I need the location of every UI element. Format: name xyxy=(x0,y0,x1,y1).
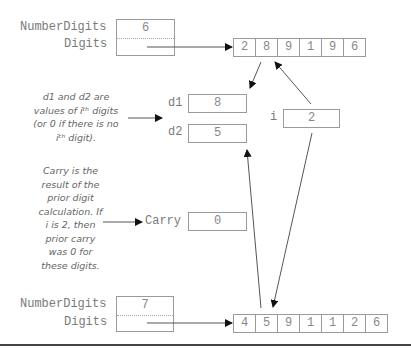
array-cell: 1 xyxy=(321,314,344,333)
array-cell: 6 xyxy=(365,314,388,333)
array-cell: 6 xyxy=(343,38,366,57)
array-cell: 5 xyxy=(255,314,278,333)
array-cell: 2 xyxy=(233,38,256,57)
d2-label: d2 xyxy=(168,125,182,139)
array-cell: 9 xyxy=(277,38,300,57)
digits-label-top: Digits xyxy=(64,37,107,51)
array-cell: 9 xyxy=(321,38,344,57)
i-box: 2 xyxy=(283,109,340,128)
digits-label-bottom: Digits xyxy=(64,315,107,329)
number-digits-label-top: NumberDigits xyxy=(20,20,106,34)
d2-box: 5 xyxy=(188,124,247,143)
bottom-record-box: 7 xyxy=(116,296,174,332)
d1-box: 8 xyxy=(188,94,247,113)
carry-box: 0 xyxy=(188,212,247,231)
array-cell: 8 xyxy=(255,38,278,57)
array-cell: 9 xyxy=(277,314,300,333)
bottom-digits-array: 4 5 9 1 1 2 6 xyxy=(233,314,388,333)
top-digits-array: 2 8 9 1 9 6 xyxy=(233,38,366,57)
bottom-number-digits-value: 7 xyxy=(117,297,173,316)
top-number-digits-value: 6 xyxy=(117,20,174,39)
top-record-box: 6 xyxy=(116,19,175,56)
i-label: i xyxy=(270,110,277,124)
d-note: d1 and d2 are values of iᵗʰ digits (or 0… xyxy=(20,90,132,144)
carry-note: Carry is the result of the prior digit c… xyxy=(28,164,113,272)
array-cell: 1 xyxy=(299,38,322,57)
array-cell: 1 xyxy=(299,314,322,333)
array-cell: 2 xyxy=(343,314,366,333)
number-digits-label-bottom: NumberDigits xyxy=(20,297,106,311)
d1-label: d1 xyxy=(168,96,182,110)
carry-label: Carry xyxy=(145,214,181,228)
bottom-rule xyxy=(0,344,411,346)
array-cell: 4 xyxy=(233,314,256,333)
